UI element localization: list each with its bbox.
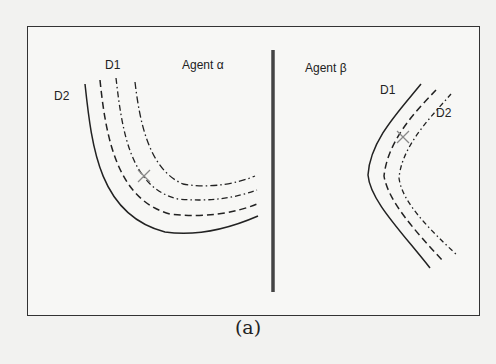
left-label-d2: D2 — [54, 89, 69, 103]
right-x-marker-icon — [397, 131, 409, 143]
right-agent-label: Agent β — [305, 61, 347, 75]
diagram-curves — [0, 0, 496, 364]
figure-caption: (a) — [0, 316, 496, 338]
right-curve-solid — [368, 84, 430, 268]
left-label-d1: D1 — [105, 58, 120, 72]
left-x-marker-icon — [138, 170, 150, 182]
left-curve-dashdot-2 — [135, 82, 255, 186]
right-label-d1: D1 — [380, 83, 395, 97]
right-curve-dashed — [384, 90, 444, 262]
left-curve-dashed — [100, 80, 257, 215]
right-label-d2: D2 — [436, 106, 451, 120]
left-agent-label: Agent α — [182, 58, 224, 72]
